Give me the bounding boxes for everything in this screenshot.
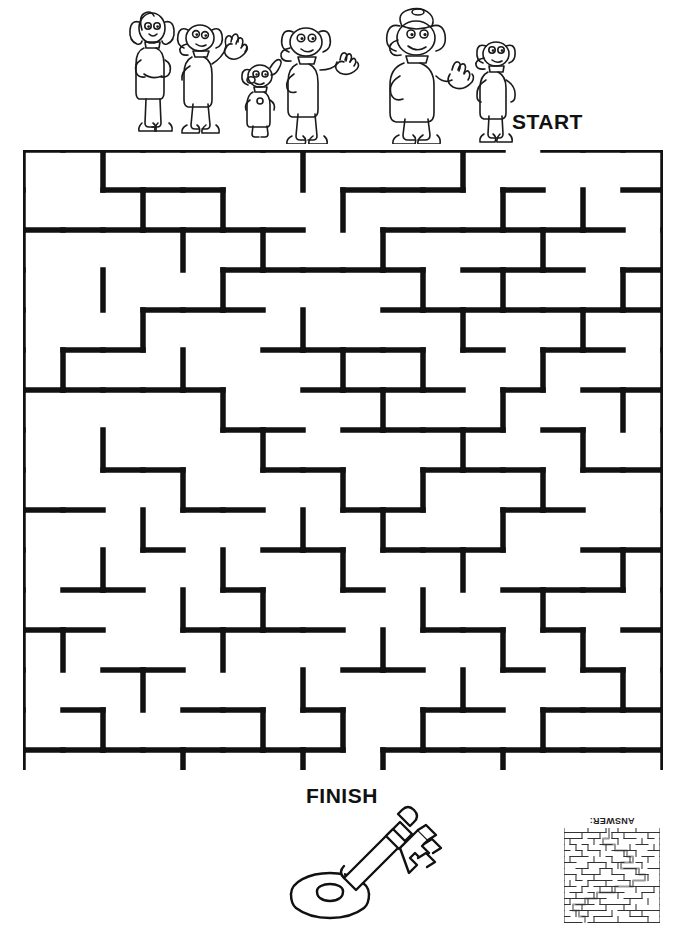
- answer-caption: ANSWER:: [564, 816, 660, 826]
- dog-6: [476, 42, 515, 142]
- dog-4: [281, 28, 359, 144]
- start-label: START: [512, 110, 583, 134]
- dog-2: [178, 25, 248, 133]
- dog-1: [130, 12, 174, 131]
- answer-key-thumbnail: ANSWER:: [556, 796, 668, 924]
- maze-worksheet-page: START FINISH: [0, 0, 684, 932]
- dog-5: [387, 9, 474, 144]
- skeleton-key-icon: [282, 786, 462, 926]
- cartoon-dog-characters-illustration: [108, 4, 528, 144]
- dog-3-puppy: [242, 60, 281, 137]
- maze-grid: [23, 150, 663, 770]
